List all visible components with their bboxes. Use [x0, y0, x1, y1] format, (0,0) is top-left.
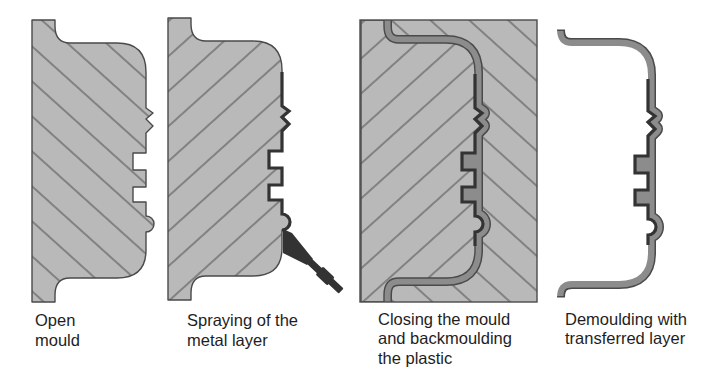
- label-demoulding: Demoulding with transferred layer: [565, 310, 687, 349]
- label-line: the plastic: [378, 349, 512, 369]
- mould-half: [168, 18, 290, 300]
- closed-mould: [360, 20, 537, 302]
- label-line: transferred layer: [565, 329, 687, 349]
- label-line: Demoulding with: [565, 310, 687, 330]
- rib-lower: [635, 190, 655, 205]
- label-spraying: Spraying of the metal layer: [187, 311, 298, 350]
- label-line: metal layer: [187, 331, 298, 351]
- spray-gun: [283, 229, 345, 295]
- label-line: Closing the mould: [378, 310, 512, 330]
- label-line: and backmoulding: [378, 329, 512, 349]
- spraying-mould: [168, 18, 290, 300]
- label-closing: Closing the mould and backmoulding the p…: [378, 310, 512, 369]
- open-mould: [32, 20, 154, 302]
- label-line: mould: [35, 331, 80, 351]
- spray-nozzle-icon: [305, 257, 345, 295]
- demoulded-part: [534, 23, 656, 305]
- rib-upper: [635, 156, 655, 173]
- label-line: Spraying of the: [187, 311, 298, 331]
- mould-half: [32, 20, 154, 302]
- label-line: Open: [35, 311, 80, 331]
- label-open-mould: Open mould: [35, 311, 80, 350]
- spray-cone: [283, 229, 313, 265]
